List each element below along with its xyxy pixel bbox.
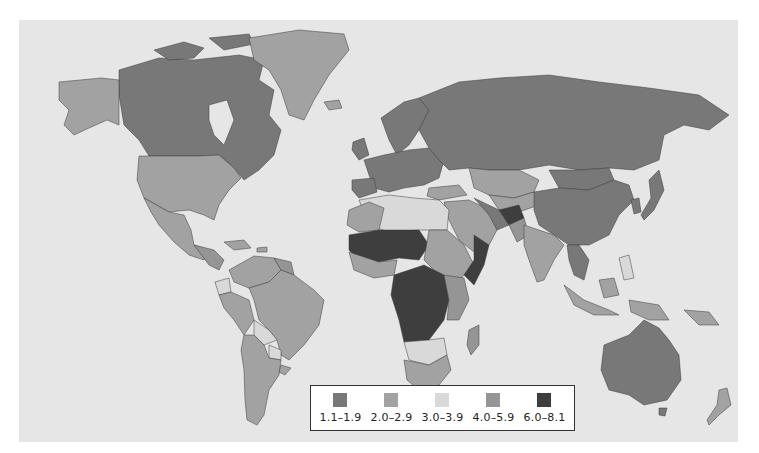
- legend-label: 2.0–2.9: [371, 411, 413, 424]
- region-maghreb: [347, 202, 384, 232]
- region-indonesia: [564, 278, 669, 320]
- region-madagascar: [467, 325, 479, 355]
- region-central-africa: [391, 265, 449, 342]
- region-alaska: [59, 78, 119, 135]
- legend-swatch: [384, 393, 398, 407]
- region-turkey: [427, 185, 467, 200]
- legend-item-2: 3.0–3.9: [422, 393, 464, 424]
- world-map: [19, 20, 738, 442]
- region-uk-ireland: [352, 138, 369, 160]
- region-uruguay: [279, 365, 291, 375]
- region-iberia: [352, 178, 377, 198]
- legend-swatch: [435, 393, 449, 407]
- region-new-zealand: [707, 388, 731, 425]
- region-peru: [219, 292, 254, 335]
- region-korea-japan: [631, 170, 664, 220]
- legend-item-0: 1.1–1.9: [320, 393, 362, 424]
- legend-label: 1.1–1.9: [320, 411, 362, 424]
- legend-swatch: [486, 393, 500, 407]
- region-southeast-asia: [567, 245, 589, 280]
- region-tasmania: [659, 408, 667, 416]
- legend-swatch: [537, 393, 551, 407]
- region-australia: [601, 320, 681, 405]
- map-legend: 1.1–1.9 2.0–2.9 3.0–3.9 4.0–5.9 6.0–8.1: [310, 385, 575, 431]
- map-frame: [19, 20, 738, 442]
- region-papua: [684, 310, 719, 325]
- region-caribbean: [224, 240, 267, 252]
- legend-item-1: 2.0–2.9: [371, 393, 413, 424]
- region-philippines: [619, 255, 634, 280]
- region-western-europe: [364, 148, 444, 192]
- legend-label: 3.0–3.9: [422, 411, 464, 424]
- legend-item-4: 6.0–8.1: [524, 393, 566, 424]
- legend-label: 6.0–8.1: [524, 411, 566, 424]
- region-russia: [419, 75, 729, 170]
- legend-swatch: [333, 393, 347, 407]
- legend-item-3: 4.0–5.9: [473, 393, 515, 424]
- legend-label: 4.0–5.9: [473, 411, 515, 424]
- region-iceland: [324, 100, 342, 110]
